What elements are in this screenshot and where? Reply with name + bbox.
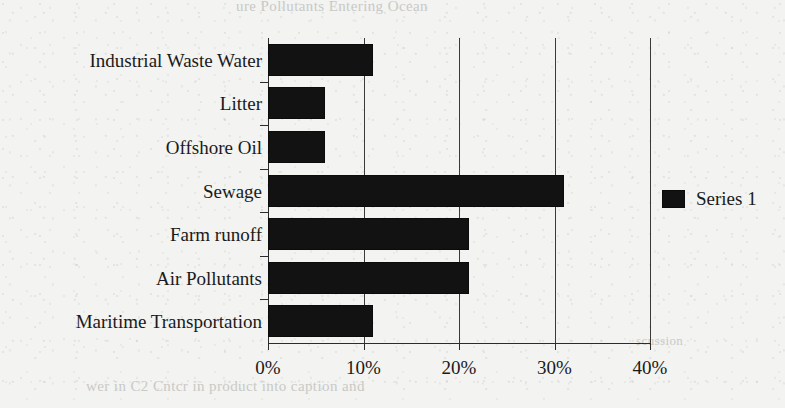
category-label: Sewage — [0, 182, 262, 201]
category-label: Air Pollutants — [0, 269, 262, 288]
x-tick-20% — [459, 343, 460, 350]
x-tick-label: 0% — [223, 357, 313, 379]
category-label: Industrial Waste Water — [0, 51, 262, 70]
category-label: Farm runoff — [0, 225, 262, 244]
category-label: Maritime Transportation — [0, 312, 262, 331]
bar — [268, 218, 469, 250]
category-label: Litter — [0, 94, 262, 113]
y-tick — [260, 125, 268, 126]
legend-swatch-series-1 — [662, 190, 685, 208]
bar-chart: Industrial Waste WaterLitterOffshore Oil… — [0, 0, 785, 408]
x-tick-label: 10% — [319, 357, 409, 379]
y-tick — [260, 299, 268, 300]
bar — [268, 87, 325, 119]
y-tick — [260, 256, 268, 257]
legend-label-series-1: Series 1 — [696, 188, 757, 210]
bar — [268, 305, 373, 337]
bar — [268, 175, 564, 207]
bar — [268, 131, 325, 163]
x-tick-label: 40% — [605, 357, 695, 379]
x-tick-10% — [364, 343, 365, 350]
bar — [268, 44, 373, 76]
category-label: Offshore Oil — [0, 138, 262, 157]
gridline-40% — [650, 38, 651, 343]
chart-legend: Series 1 — [662, 188, 757, 210]
y-tick — [260, 212, 268, 213]
bar — [268, 262, 469, 294]
y-tick — [260, 82, 268, 83]
x-tick-label: 30% — [510, 357, 600, 379]
x-tick-label: 20% — [414, 357, 504, 379]
y-tick — [260, 169, 268, 170]
x-tick-40% — [650, 343, 651, 350]
x-tick-0% — [268, 343, 269, 350]
x-tick-30% — [555, 343, 556, 350]
